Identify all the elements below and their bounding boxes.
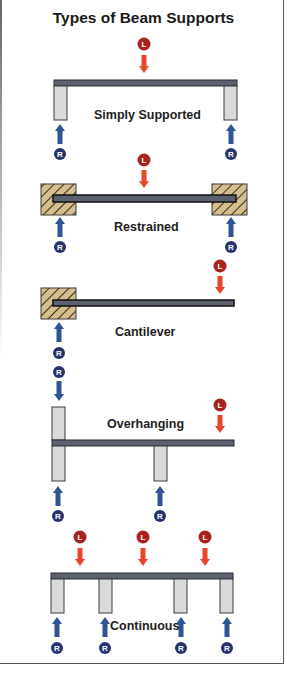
section-overhanging: R L Overhanging R R bbox=[52, 366, 234, 522]
beam bbox=[52, 440, 234, 446]
svg-text:R: R bbox=[224, 644, 230, 653]
beam-supports-diagram: L Simply Supported R R L Restrained R bbox=[0, 0, 287, 676]
load-badge: L bbox=[214, 260, 227, 273]
svg-text:L: L bbox=[203, 533, 208, 542]
support-post-left bbox=[54, 86, 67, 120]
load-arrow-icon bbox=[139, 55, 149, 73]
svg-text:L: L bbox=[218, 401, 223, 410]
section-cantilever: L Cantilever R bbox=[41, 260, 234, 360]
reaction-arrow-icon bbox=[54, 381, 64, 401]
load-badge: L bbox=[199, 531, 212, 544]
reaction-badge: R bbox=[52, 510, 64, 522]
section-label: Overhanging bbox=[107, 417, 184, 431]
beam bbox=[51, 573, 233, 579]
section-label: Simply Supported bbox=[94, 108, 201, 122]
reaction-arrow-icon bbox=[55, 217, 65, 237]
svg-text:L: L bbox=[78, 533, 83, 542]
svg-text:L: L bbox=[142, 40, 147, 49]
reaction-arrow-icon bbox=[55, 124, 65, 144]
svg-text:R: R bbox=[157, 512, 163, 521]
reaction-badge: R bbox=[225, 148, 237, 160]
load-badge: L bbox=[137, 531, 150, 544]
load-badge: L bbox=[74, 531, 87, 544]
support-post-middle bbox=[154, 446, 167, 481]
reaction-arrow-icon bbox=[226, 124, 236, 144]
svg-text:R: R bbox=[56, 349, 62, 358]
reaction-arrow-icon bbox=[52, 617, 62, 637]
reaction-arrow-icon bbox=[54, 322, 64, 342]
svg-text:R: R bbox=[56, 368, 62, 377]
section-continuous: L L L Continuous R R R R bbox=[51, 531, 233, 655]
upper-support-post bbox=[52, 407, 65, 440]
support-post-left bbox=[52, 446, 65, 481]
reaction-badge: R bbox=[51, 642, 63, 654]
load-badge: L bbox=[138, 154, 151, 167]
svg-text:R: R bbox=[228, 243, 234, 252]
support-post-3 bbox=[174, 579, 187, 613]
support-post-right bbox=[224, 86, 237, 120]
reaction-arrow-icon bbox=[100, 617, 110, 637]
svg-text:R: R bbox=[57, 243, 63, 252]
load-arrow-icon bbox=[215, 276, 225, 294]
beam bbox=[54, 80, 237, 86]
svg-text:R: R bbox=[102, 644, 108, 653]
svg-text:R: R bbox=[54, 644, 60, 653]
reaction-badge: R bbox=[175, 642, 187, 654]
reaction-badge: R bbox=[53, 347, 65, 359]
section-simply-supported: L Simply Supported R R bbox=[54, 38, 237, 161]
reaction-arrow-icon bbox=[226, 217, 236, 237]
section-label: Cantilever bbox=[115, 325, 176, 339]
support-post-2 bbox=[99, 579, 112, 613]
svg-text:L: L bbox=[142, 156, 147, 165]
section-restrained: L Restrained R R bbox=[41, 154, 247, 254]
svg-text:R: R bbox=[55, 512, 61, 521]
svg-text:R: R bbox=[228, 150, 234, 159]
load-arrow-icon bbox=[139, 170, 149, 188]
load-badge: L bbox=[214, 399, 227, 412]
load-arrow-icon bbox=[200, 548, 210, 566]
reaction-arrow-icon bbox=[155, 486, 165, 506]
reaction-arrow-icon bbox=[222, 617, 232, 637]
reaction-arrow-icon bbox=[53, 486, 63, 506]
load-arrow-icon bbox=[138, 548, 148, 566]
beam bbox=[53, 195, 236, 202]
reaction-badge: R bbox=[54, 148, 66, 160]
svg-text:R: R bbox=[178, 644, 184, 653]
svg-text:R: R bbox=[57, 150, 63, 159]
reaction-badge: R bbox=[154, 510, 166, 522]
beam bbox=[53, 300, 234, 306]
section-label: Continuous bbox=[110, 619, 179, 633]
reaction-badge: R bbox=[54, 241, 66, 253]
support-post-4 bbox=[220, 579, 233, 613]
load-arrow-icon bbox=[215, 415, 225, 433]
svg-text:L: L bbox=[141, 533, 146, 542]
svg-text:L: L bbox=[218, 262, 223, 271]
reaction-badge: R bbox=[99, 642, 111, 654]
reaction-badge: R bbox=[225, 241, 237, 253]
reaction-badge: R bbox=[221, 642, 233, 654]
section-label: Restrained bbox=[114, 220, 179, 234]
load-badge: L bbox=[138, 38, 151, 51]
load-arrow-icon bbox=[75, 548, 85, 566]
support-post-1 bbox=[51, 579, 64, 613]
reaction-badge: R bbox=[53, 366, 65, 378]
